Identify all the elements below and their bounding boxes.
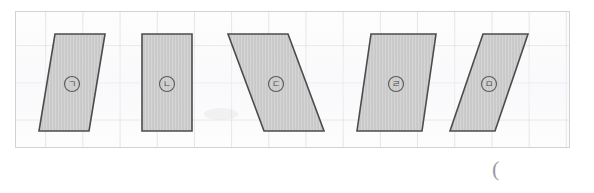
figure-shape-5[interactable]: ㅁ	[450, 34, 528, 131]
worksheet-page: ㄱ ㄴ ㄷ ㄹ	[0, 0, 594, 193]
figure-shape-1[interactable]: ㄱ	[39, 34, 105, 131]
figure-panel: ㄱ ㄴ ㄷ ㄹ	[15, 11, 570, 148]
label-text-shape-3: ㄷ	[272, 79, 280, 89]
shapes-canvas: ㄱ ㄴ ㄷ ㄹ	[16, 12, 570, 148]
label-text-shape-5: ㅁ	[485, 79, 493, 89]
figure-shape-4[interactable]: ㄹ	[357, 34, 436, 131]
label-text-shape-2: ㄴ	[163, 79, 171, 89]
label-text-shape-4: ㄹ	[392, 79, 400, 89]
label-text-shape-1: ㄱ	[68, 79, 76, 89]
figure-shape-3[interactable]: ㄷ	[228, 34, 324, 131]
stray-parenthesis-mark: (	[492, 158, 499, 180]
figure-shape-2[interactable]: ㄴ	[142, 34, 192, 131]
